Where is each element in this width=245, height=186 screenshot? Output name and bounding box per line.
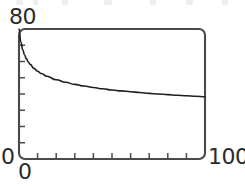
data-series-group [19,29,205,97]
x-axis-max-label: 100 [208,146,245,168]
y-axis-max-label: 80 [9,6,36,28]
figure-chart: 80 0 0 100 [0,0,245,186]
y-axis-min-label: 0 [1,146,15,168]
x-axis-min-label: 0 [18,161,32,183]
axis-frame [19,29,205,159]
